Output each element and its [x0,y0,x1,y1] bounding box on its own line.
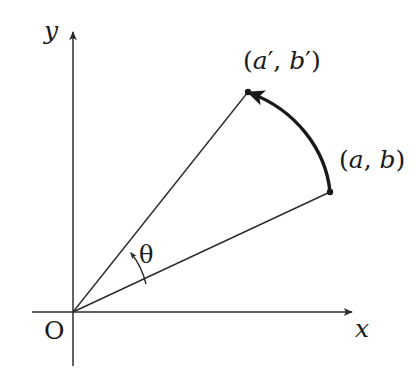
paren-close: ) [396,145,406,174]
rotation-diagram: y x O θ (a′, b′) (a, b) [0,0,416,381]
var-a: a [349,145,364,174]
x-axis-label: x [355,316,369,341]
ray-to-point-original [73,192,330,312]
paren-open: ( [339,145,349,174]
point-label-rotated: (a′, b′) [243,48,321,73]
point-label-original: (a, b) [339,147,405,172]
comma-separator: , [273,46,289,75]
ray-to-point-rotated [73,92,248,312]
point-dot-original [327,189,333,195]
paren-open: ( [243,46,253,75]
y-axis-label: y [44,18,58,43]
theta-label: θ [139,243,153,267]
point-dot-rotated [245,89,251,95]
comma-separator: , [364,145,380,174]
var-a-prime: a [253,46,268,75]
paren-close: ) [311,46,321,75]
var-b-prime: b [289,46,305,75]
var-b: b [380,145,396,174]
origin-label: O [44,318,65,343]
rotation-arc [250,93,330,192]
